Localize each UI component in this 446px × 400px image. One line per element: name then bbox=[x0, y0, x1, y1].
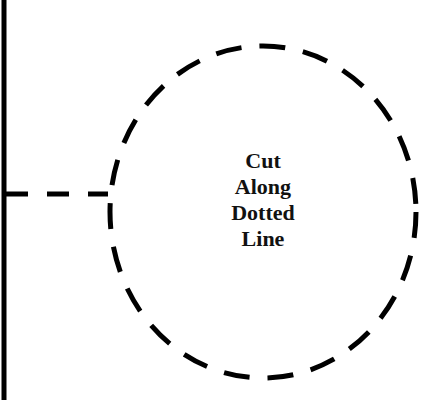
instruction-line-4: Line bbox=[231, 226, 295, 252]
instruction-line-1: Cut bbox=[231, 148, 295, 174]
instruction-line-3: Dotted bbox=[231, 200, 295, 226]
cut-diagram bbox=[0, 0, 446, 400]
instruction-line-2: Along bbox=[231, 174, 295, 200]
cut-instruction-label: Cut Along Dotted Line bbox=[231, 148, 295, 252]
